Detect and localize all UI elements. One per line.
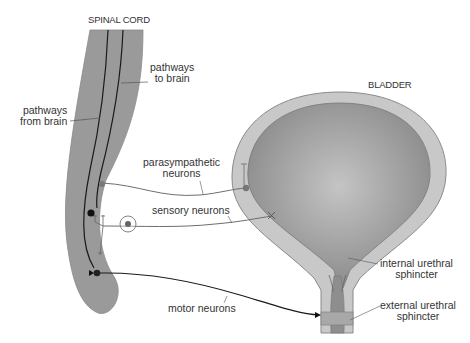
- parasympathetic-ganglion: [243, 185, 249, 191]
- motor-cell-body: [94, 270, 101, 277]
- label-line: neurons: [143, 168, 220, 179]
- spinal-cord: [65, 30, 143, 314]
- descending-synapse: [87, 209, 94, 216]
- external-sphincter: [321, 312, 353, 325]
- label-internal-sphincter: internal urethral sphincter: [380, 258, 453, 280]
- label-motor: motor neurons: [168, 303, 236, 314]
- label-pathways-from-brain: pathways from brain: [20, 105, 67, 127]
- parasympathetic-cell-cord: [99, 181, 105, 187]
- parasympathetic-nerve: [102, 183, 246, 195]
- bladder-innervation-diagram: SPINAL CORD BLADDER pathways from brain …: [0, 0, 470, 343]
- label-parasympathetic: parasympathetic neurons: [143, 157, 220, 179]
- label-line: from brain: [20, 116, 67, 127]
- label-external-sphincter: external urethral sphincter: [380, 300, 456, 322]
- label-pathways-to-brain: pathways to brain: [150, 62, 194, 84]
- label-sensory: sensory neurons: [152, 205, 230, 216]
- label-line: sphincter: [380, 311, 456, 322]
- spinal-cord-title: SPINAL CORD: [88, 14, 150, 25]
- sensory-cell-body: [125, 221, 131, 227]
- diagram-graphic: [0, 0, 470, 343]
- bladder-title: BLADDER: [368, 79, 411, 90]
- leader-external: [350, 306, 380, 320]
- label-line: sphincter: [380, 269, 453, 280]
- leader-parasympathetic: [200, 181, 203, 194]
- motor-terminal: [315, 312, 321, 318]
- label-line: to brain: [150, 73, 194, 84]
